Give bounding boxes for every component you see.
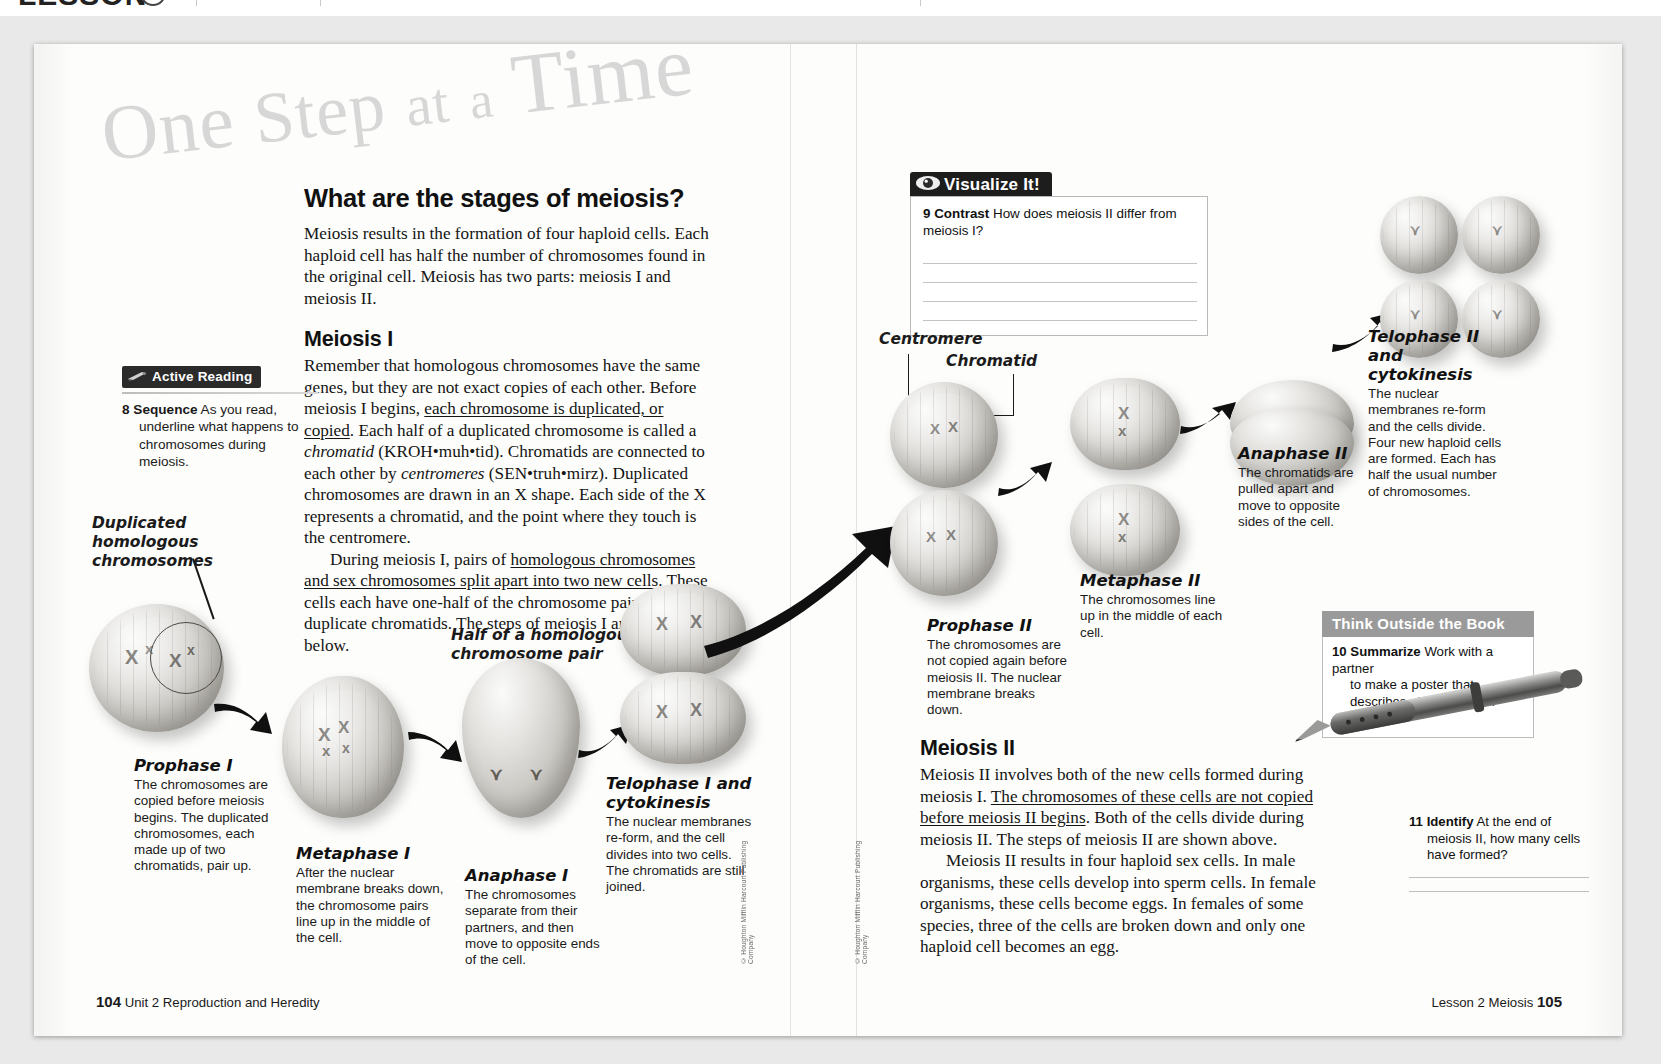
cell-metaphase-one: X X x x [282,676,404,818]
stage-description: The chromosomes line up in the middle of… [1080,592,1228,641]
stage-description: The chromosomes are copied before meiosi… [134,777,274,875]
copyright-notice-right: © Houghton Mifflin Harcourt Publishing C… [854,834,868,964]
cell-prophase-two-upper: X X [890,382,998,488]
chromosome-glyph: ⋎ [1492,222,1502,238]
page-spread: One Step at a Time What are the stages o… [34,44,1622,1036]
callout-centromere: Centromere [879,330,982,349]
question-text-rest: underline what happens to chromosomes du… [122,418,318,470]
stage-name: Metaphase I [296,844,444,863]
active-reading-tab: Active Reading [122,366,261,388]
arrow-prophase-to-metaphase [212,696,280,738]
cell-metaphase-two-upper: X x [1070,378,1180,470]
active-reading-callout: Active Reading 8 Sequence As you read, u… [122,366,318,471]
meiosis-one-paragraph-1: Remember that homologous chromosomes hav… [304,355,714,549]
question-text-rest: meiosis II, how many cells have formed? [1409,831,1589,864]
meiosis-two-heading: Meiosis II [920,736,1335,761]
chromosome-glyph: X [1118,510,1129,530]
question-verb-contrast: Contrast [934,206,989,221]
intro-paragraph: Meiosis results in the formation of four… [304,223,714,309]
chromosome-glyph: X [125,646,138,669]
cell-anaphase-one: ⋎ ⋎ [462,658,580,818]
stage-description: The nuclear membranes re-form and the ce… [1368,386,1508,500]
lesson-top-bar: LESSON 2 Overview Engage [0,0,1661,16]
stage-name: Telophase I and cytokinesis [606,774,758,812]
chromosome-glyph: ⋎ [1410,306,1420,322]
footer-right-text: Lesson 2 Meiosis [1431,995,1533,1010]
identify-answer-line-1[interactable] [1409,877,1589,878]
stage-caption-telophase-two: Telophase II and cytokinesis The nuclear… [1368,327,1508,500]
stage-caption-metaphase-two: Metaphase II The chromosomes line up in … [1080,571,1228,641]
breadcrumb-divider-2 [320,0,321,6]
chromosome-glyph: X [656,702,668,723]
stage-name: Prophase II [927,616,1067,635]
chromosome-glyph: X [338,718,349,738]
stage-name: Prophase I [134,756,274,775]
stage-description: After the nuclear membrane breaks down, … [296,865,444,946]
active-reading-question: 8 Sequence As you read, underline what h… [122,401,318,471]
think-outside-tab-label: Think Outside the Book [1322,611,1534,637]
stage-caption-anaphase-two: Anaphase II The chromatids are pulled ap… [1238,444,1366,530]
answer-line-4[interactable] [923,320,1197,321]
chromosome-glyph: X [1118,404,1129,424]
pencil-icon [127,370,148,381]
answer-line-3[interactable] [923,301,1197,302]
stage-caption-metaphase-one: Metaphase I After the nuclear membrane b… [296,844,444,946]
footer-left: 104 Unit 2 Reproduction and Heredity [96,993,320,1010]
active-reading-rule [122,392,318,394]
cell-metaphase-two-lower: X x [1070,484,1180,576]
stage-caption-prophase-two: Prophase II The chromosomes are not copi… [927,616,1067,718]
chromosome-glyph: X [948,418,958,435]
stage-name: Telophase II and cytokinesis [1368,327,1508,384]
breadcrumb-divider-3 [920,0,921,6]
chromosome-glyph: X [690,612,702,633]
chromosome-glyph: x [342,740,350,756]
question-text-line1: As you read, [201,402,277,417]
ghost-title-word-2: Step [250,65,390,159]
arrow-prophase-two-to-metaphase-two [996,462,1058,504]
right-text-column: Meiosis II Meiosis II involves both of t… [920,736,1335,958]
visualize-it-tab-inner: Visualize It! [910,172,1052,199]
footer-left-text: Unit 2 Reproduction and Heredity [125,995,320,1010]
question-text-line1: At the end of [1476,814,1551,829]
chromosome-glyph: X [318,724,331,746]
chromosome-glyph: X [690,700,702,721]
identify-question-callout: 11 Identify At the end of meiosis II, ho… [1409,814,1589,892]
decorative-page-title: One Step at a Time [96,15,699,182]
visualize-it-question: 9 Contrast How does meiosis II differ fr… [911,197,1207,239]
stage-caption-anaphase-one: Anaphase I The chromosomes separate from… [465,866,601,968]
cell-telophase-two-2: ⋎ [1462,196,1540,274]
stage-caption-prophase-one: Prophase I The chromosomes are copied be… [134,756,274,875]
chromosome-glyph: X [656,614,668,635]
stage-description: The chromosomes are not copied again bef… [927,637,1067,718]
meiosis-two-paragraph-2: Meiosis II results in four haploid sex c… [920,850,1335,958]
cell-telophase-one-lower: X X [620,672,746,764]
page-question-heading: What are the stages of meiosis? [304,184,714,213]
meiosis-two-paragraph-1: Meiosis II involves both of the new cell… [920,764,1335,850]
answer-line-2[interactable] [923,282,1197,283]
answer-line-1[interactable] [923,263,1197,264]
page-number-right: 105 [1537,993,1562,1010]
question-number-11: 11 [1409,814,1423,829]
ghost-title-word-5: Time [506,17,698,133]
ghost-title-word-4: a [466,70,496,129]
callout-duplicated-chromosomes: Duplicated homologous chromosomes [92,514,262,571]
chromosome-glyph: X [946,526,956,543]
leader-chromatid-vertical [1013,374,1014,416]
arrow-metaphase-to-anaphase [406,726,468,766]
identify-answer-line-2[interactable] [1409,891,1589,892]
stage-caption-telophase-one: Telophase I and cytokinesis The nuclear … [606,774,758,895]
stage-name: Metaphase II [1080,571,1228,590]
stage-description: The chromosomes separate from their part… [465,887,601,968]
left-text-column: What are the stages of meiosis? Meiosis … [304,184,714,656]
meiosis-one-heading: Meiosis I [304,327,714,352]
stage-description: The chromatids are pulled apart and move… [1238,465,1366,530]
magnified-nucleus-ring [150,622,222,694]
callout-chromatid: Chromatid [946,352,1037,371]
question-verb-identify: Identify [1427,814,1474,829]
breadcrumb-divider-1 [196,0,197,6]
question-verb-sequence: Sequence [133,402,197,417]
cell-telophase-two-1: ⋎ [1380,196,1458,274]
chromosome-glyph: x [322,742,330,759]
chromosome-glyph: x [1118,528,1126,545]
eye-icon [915,175,941,191]
